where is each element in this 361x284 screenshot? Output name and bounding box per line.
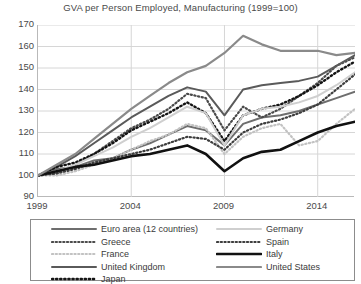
legend-column-right: GermanySpainItalyUnited States <box>216 223 361 273</box>
legend-item[interactable]: United States <box>216 261 361 273</box>
x-axis-tick-label: 1999 <box>15 200 59 211</box>
chart-legend: Euro area (12 countries)GreeceFranceUnit… <box>30 219 355 281</box>
legend-swatch-line-icon <box>51 237 97 247</box>
legend-swatch-line-icon <box>51 249 97 259</box>
legend-item-label: Spain <box>266 237 289 247</box>
series-line <box>38 92 355 176</box>
y-axis-tick-label: 120 <box>2 127 34 137</box>
legend-item-label: United States <box>266 262 320 272</box>
y-axis-tick-label: 160 <box>2 41 34 51</box>
legend-swatch-line-icon <box>216 237 262 247</box>
chart-container: GVA per Person Employed, Manufacturing (… <box>0 0 361 284</box>
legend-item[interactable]: Italy <box>216 248 361 260</box>
legend-column-left: Euro area (12 countries)GreeceFranceUnit… <box>51 223 201 284</box>
legend-item[interactable]: Spain <box>216 236 361 248</box>
x-axis-tick-label: 2004 <box>108 200 152 211</box>
legend-item-label: Greece <box>101 237 131 247</box>
legend-item[interactable]: Euro area (12 countries) <box>51 223 201 235</box>
legend-swatch-line-icon <box>51 274 97 284</box>
legend-item[interactable]: Greece <box>51 236 201 248</box>
y-axis-tick-label: 140 <box>2 84 34 94</box>
legend-item[interactable]: United Kingdom <box>51 261 201 273</box>
y-axis-tick-label: 150 <box>2 62 34 72</box>
legend-item[interactable]: Japan <box>51 273 201 284</box>
y-axis-tick-label: 170 <box>2 19 34 29</box>
x-axis-tick-label: 2014 <box>295 200 339 211</box>
plot-area <box>37 25 354 197</box>
x-axis-tick-label: 2009 <box>201 200 245 211</box>
legend-item[interactable]: France <box>51 248 201 260</box>
legend-item-label: Germany <box>266 224 303 234</box>
legend-item-label: United Kingdom <box>101 262 165 272</box>
legend-swatch-line-icon <box>216 249 262 259</box>
legend-swatch-line-icon <box>51 224 97 234</box>
y-axis-tick-label: 130 <box>2 105 34 115</box>
series-line <box>38 72 355 175</box>
series-line <box>38 36 355 176</box>
y-axis-tick-label: 110 <box>2 148 34 158</box>
legend-item-label: Euro area (12 countries) <box>101 224 198 234</box>
legend-swatch-line-icon <box>51 262 97 272</box>
legend-item-label: France <box>101 249 129 259</box>
y-axis: 17016015014013012011010090 <box>0 0 34 210</box>
plot-lines <box>38 25 355 197</box>
legend-swatch-line-icon <box>216 262 262 272</box>
chart-title: GVA per Person Employed, Manufacturing (… <box>0 2 361 13</box>
y-axis-tick-label: 100 <box>2 170 34 180</box>
legend-item[interactable]: Germany <box>216 223 361 235</box>
legend-item-label: Italy <box>266 249 283 259</box>
legend-swatch-line-icon <box>216 224 262 234</box>
legend-item-label: Japan <box>101 274 126 284</box>
